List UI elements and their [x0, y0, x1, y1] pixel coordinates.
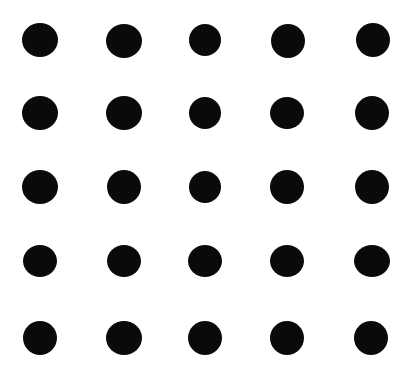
grid-dot: [106, 96, 142, 130]
grid-dot: [355, 170, 389, 204]
grid-dot: [270, 321, 304, 355]
grid-dot: [22, 23, 58, 57]
grid-dot: [270, 245, 304, 277]
grid-dot: [23, 321, 57, 355]
grid-dot: [106, 321, 142, 355]
grid-dot: [189, 24, 221, 56]
grid-dot: [354, 245, 390, 277]
grid-dot: [107, 245, 141, 277]
grid-dot: [270, 97, 304, 129]
grid-dot: [23, 245, 57, 277]
grid-dot: [107, 170, 141, 204]
grid-dot: [188, 321, 222, 355]
grid-dot: [189, 97, 221, 129]
grid-dot: [354, 321, 388, 355]
grid-dot: [189, 171, 221, 203]
dot-grid-canvas: [0, 0, 411, 373]
grid-dot: [22, 170, 58, 204]
grid-dot: [356, 23, 390, 57]
grid-dot: [271, 24, 305, 58]
grid-dot: [22, 96, 58, 130]
grid-dot: [188, 245, 222, 277]
grid-dot: [270, 170, 304, 204]
grid-dot: [106, 24, 142, 58]
grid-dot: [355, 96, 389, 130]
